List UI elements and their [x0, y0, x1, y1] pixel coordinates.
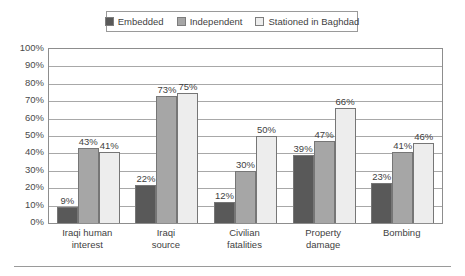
- chart-legend: EmbeddedIndependentStationed in Baghdad: [106, 11, 358, 32]
- bar-slot: 41%: [392, 49, 413, 223]
- bar-slot: 30%: [235, 49, 256, 223]
- x-axis: Iraqi humaninterestIraqisourceCivilianfa…: [48, 227, 443, 261]
- bar-slot: 22%: [135, 49, 156, 223]
- bar-slot: 12%: [214, 49, 235, 223]
- bar-slot: 9%: [57, 49, 78, 223]
- legend-entry[interactable]: Stationed in Baghdad: [255, 17, 359, 27]
- bar-value-label: 50%: [257, 125, 276, 135]
- y-axis-tick-label: 20%: [0, 182, 44, 192]
- bar-value-label: 73%: [157, 85, 176, 95]
- legend-swatch-icon: [177, 17, 186, 26]
- bar-slot: 43%: [78, 49, 99, 223]
- bar-chart-figure: EmbeddedIndependentStationed in Baghdad …: [0, 0, 465, 276]
- bar[interactable]: [413, 143, 434, 223]
- bar-slot: 23%: [371, 49, 392, 223]
- bar[interactable]: [135, 185, 156, 223]
- bar[interactable]: [235, 171, 256, 223]
- bar-slot: 73%: [156, 49, 177, 223]
- y-axis-tick-label: 30%: [0, 165, 44, 175]
- x-axis-category-label: Bombing: [362, 227, 441, 239]
- y-axis-tick-label: 80%: [0, 78, 44, 88]
- bar[interactable]: [177, 93, 198, 224]
- bar-group: 12%30%50%: [214, 49, 277, 223]
- x-axis-category-line: source: [127, 239, 206, 251]
- bar[interactable]: [314, 141, 335, 223]
- bar[interactable]: [78, 148, 99, 223]
- bar-value-label: 23%: [372, 172, 391, 182]
- bar[interactable]: [57, 207, 78, 223]
- bar-slot: 46%: [413, 49, 434, 223]
- bar-value-label: 47%: [315, 130, 334, 140]
- bar[interactable]: [214, 202, 235, 223]
- bar[interactable]: [335, 108, 356, 223]
- x-axis-category-line: Civilian: [205, 227, 284, 239]
- bar[interactable]: [392, 152, 413, 223]
- bar-value-label: 30%: [236, 160, 255, 170]
- bar-value-label: 75%: [178, 82, 197, 92]
- x-axis-category-line: Iraqi: [127, 227, 206, 239]
- y-axis-tick-label: 70%: [0, 95, 44, 105]
- bar-value-label: 39%: [294, 144, 313, 154]
- bar-value-label: 46%: [414, 132, 433, 142]
- bar-value-label: 22%: [136, 174, 155, 184]
- bar-value-label: 9%: [60, 196, 74, 206]
- x-axis-category-line: interest: [48, 239, 127, 251]
- bar-value-label: 66%: [336, 97, 355, 107]
- bar-group: 39%47%66%: [293, 49, 356, 223]
- bottom-rule: [14, 266, 451, 267]
- bar-value-label: 41%: [393, 141, 412, 151]
- legend-swatch-icon: [105, 17, 114, 26]
- bar-value-label: 43%: [79, 137, 98, 147]
- bar-value-label: 12%: [215, 191, 234, 201]
- y-axis-tick-label: 0%: [0, 217, 44, 227]
- x-axis-category-label: Iraqi humaninterest: [48, 227, 127, 250]
- bar[interactable]: [99, 152, 120, 223]
- legend-swatch-icon: [255, 17, 264, 26]
- x-axis-category-line: fatalities: [205, 239, 284, 251]
- legend-label: Embedded: [118, 17, 164, 27]
- bar-slot: 75%: [177, 49, 198, 223]
- x-axis-category-label: Iraqisource: [127, 227, 206, 250]
- plot-area: 9%43%41%22%73%75%12%30%50%39%47%66%23%41…: [48, 48, 443, 224]
- x-axis-category-line: Bombing: [362, 227, 441, 239]
- bar-slot: 41%: [99, 49, 120, 223]
- bar-group: 23%41%46%: [371, 49, 434, 223]
- x-axis-category-label: Propertydamage: [284, 227, 363, 250]
- legend-label: Independent: [190, 17, 243, 27]
- bar-slot: 66%: [335, 49, 356, 223]
- bar-slot: 50%: [256, 49, 277, 223]
- y-axis-tick-label: 50%: [0, 130, 44, 140]
- y-axis-tick-label: 60%: [0, 113, 44, 123]
- x-axis-category-line: damage: [284, 239, 363, 251]
- x-axis-category-line: Iraqi human: [48, 227, 127, 239]
- legend-entry[interactable]: Embedded: [105, 17, 164, 27]
- x-axis-category-line: Property: [284, 227, 363, 239]
- y-axis: 100%90%80%70%60%50%40%30%20%10%0%: [0, 48, 44, 224]
- y-axis-tick-label: 90%: [0, 60, 44, 70]
- legend-entry[interactable]: Independent: [177, 17, 243, 27]
- bar[interactable]: [256, 136, 277, 223]
- plot-inner: 9%43%41%22%73%75%12%30%50%39%47%66%23%41…: [49, 49, 442, 223]
- bar[interactable]: [156, 96, 177, 223]
- bar-slot: 39%: [293, 49, 314, 223]
- bar-slot: 47%: [314, 49, 335, 223]
- y-axis-tick-label: 100%: [0, 43, 44, 53]
- bar-value-label: 41%: [100, 141, 119, 151]
- x-axis-category-label: Civilianfatalities: [205, 227, 284, 250]
- y-axis-tick-label: 10%: [0, 200, 44, 210]
- bar-group: 22%73%75%: [135, 49, 198, 223]
- bar[interactable]: [371, 183, 392, 223]
- bar[interactable]: [293, 155, 314, 223]
- y-axis-tick-label: 40%: [0, 147, 44, 157]
- legend-label: Stationed in Baghdad: [268, 17, 359, 27]
- bar-group: 9%43%41%: [57, 49, 120, 223]
